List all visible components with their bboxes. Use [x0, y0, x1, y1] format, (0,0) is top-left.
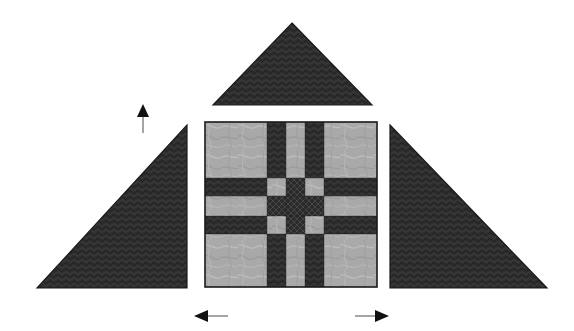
block-cell-r0-c1 — [267, 122, 286, 178]
block-cell-r2-c4 — [324, 196, 377, 216]
block-cell-r1-c0 — [205, 178, 267, 196]
block-cell-r3-c4 — [324, 216, 377, 234]
diagram-canvas — [0, 0, 574, 331]
block-cell-r4-c4 — [324, 234, 377, 287]
block-cell-r1-c3 — [305, 178, 324, 196]
left-arrow-head — [194, 310, 208, 322]
top-triangle — [213, 23, 372, 105]
block-cell-r3-c0 — [205, 216, 267, 234]
center-square-block — [205, 122, 377, 287]
left-arrow — [194, 310, 228, 322]
block-cell-r4-c3 — [305, 234, 324, 287]
right-triangle — [390, 125, 547, 288]
diagram-stage — [0, 0, 574, 331]
block-cell-r1-c2 — [286, 178, 305, 196]
block-cell-r1-c1 — [267, 178, 286, 196]
block-cell-r4-c1 — [267, 234, 286, 287]
right-arrow — [355, 310, 389, 322]
block-cell-r4-c2 — [286, 234, 305, 287]
block-cell-r2-c1 — [267, 196, 286, 216]
block-cell-r0-c4 — [324, 122, 377, 178]
block-cell-r0-c2 — [286, 122, 305, 178]
up-arrow — [137, 104, 149, 133]
block-cell-r3-c1 — [267, 216, 286, 234]
block-cell-r0-c3 — [305, 122, 324, 178]
block-cell-r1-c4 — [324, 178, 377, 196]
block-cell-r2-c0 — [205, 196, 267, 216]
center-block-cells — [205, 122, 377, 287]
left-triangle — [37, 125, 187, 288]
right-arrow-head — [375, 310, 389, 322]
block-cell-r2-c3 — [305, 196, 324, 216]
block-cell-r4-c0 — [205, 234, 267, 287]
block-cell-r2-c2 — [286, 196, 305, 216]
block-cell-r3-c2 — [286, 216, 305, 234]
up-arrow-head — [137, 104, 149, 117]
block-cell-r3-c3 — [305, 216, 324, 234]
block-cell-r0-c0 — [205, 122, 267, 178]
